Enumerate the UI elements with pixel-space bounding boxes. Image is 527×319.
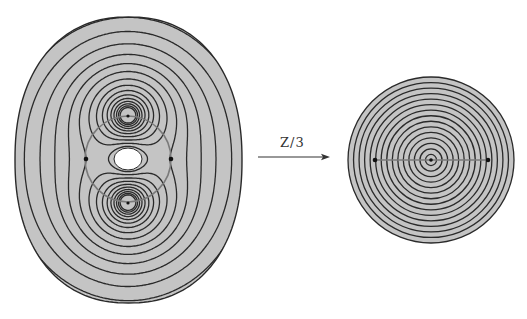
arrow-label: Z/3: [280, 135, 305, 150]
marked-point: [486, 158, 491, 163]
center-point: [429, 158, 433, 162]
figure-canvas: [0, 0, 527, 319]
map-arrow: [258, 154, 330, 160]
left-level-set-diagram: [13, 15, 244, 306]
saddle-point: [169, 157, 174, 162]
focus-point: [126, 114, 129, 117]
saddle-point: [84, 157, 89, 162]
right-concentric-disk: [348, 77, 514, 243]
central-hole: [114, 148, 142, 170]
focus-point: [126, 201, 129, 204]
marked-point: [373, 158, 378, 163]
